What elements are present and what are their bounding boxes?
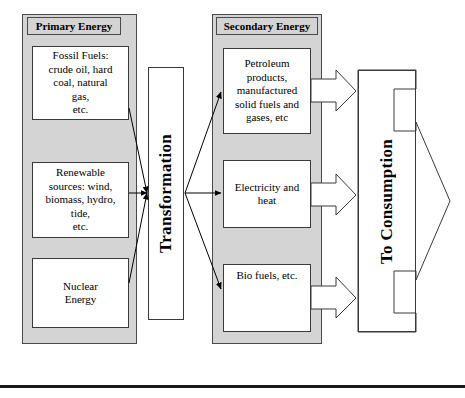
box-nuclear-energy: Nuclear Energy [32,258,129,328]
box-fossil-fuels: Fossil Fuels: crude oil, hard coal, natu… [32,46,129,120]
box-petroleum-products: Petroleum products, manufactured solid f… [223,48,311,134]
box-renewable-sources: Renewable sources: wind, biomass, hydro,… [32,162,129,238]
box-transformation: Transformation [148,67,184,320]
box-electricity-and-heat: Electricity and heat [223,160,311,228]
primary-energy-header: Primary Energy [27,17,121,35]
box-to-consumption: To Consumption [358,70,416,332]
energy-flow-diagram: Primary Energy Secondary Energy Fossil F… [0,0,465,398]
bottom-divider [0,385,465,388]
to-consumption-label: To Consumption [377,139,397,264]
secondary-energy-header: Secondary Energy [216,17,318,35]
transformation-label: Transformation [156,134,176,253]
box-bio-fuels: Bio fuels, etc. [223,264,311,332]
